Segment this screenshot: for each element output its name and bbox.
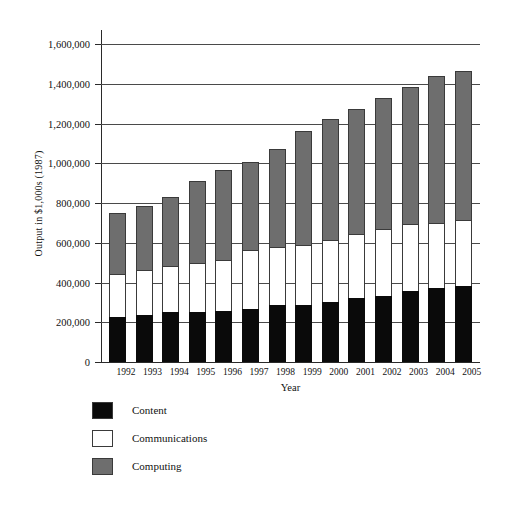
bar-segment-computing[interactable] (109, 213, 126, 274)
bar-segment-content[interactable] (322, 302, 339, 362)
legend-swatch-communications-icon (92, 430, 113, 447)
bar-segment-communications[interactable] (295, 245, 312, 305)
bar-segment-content[interactable] (189, 312, 206, 362)
gridline (101, 243, 480, 244)
bar-group[interactable] (455, 71, 472, 362)
bar-segment-computing[interactable] (402, 87, 419, 224)
bar-segment-content[interactable] (348, 298, 365, 362)
legend-item-label: Content (132, 404, 167, 416)
bar-segment-computing[interactable] (136, 206, 153, 270)
x-axis-tick-label: 2005 (455, 367, 489, 377)
legend-item[interactable]: Content (92, 396, 392, 424)
bar-segment-communications[interactable] (375, 229, 392, 296)
bar-segment-computing[interactable] (375, 98, 392, 229)
y-axis-tick-label: 1,600,000 (48, 39, 90, 50)
bar-segment-computing[interactable] (162, 197, 179, 266)
y-axis-tick-label: 400,000 (56, 277, 90, 288)
y-axis-tick-mark (95, 44, 101, 45)
bar-segment-communications[interactable] (269, 247, 286, 305)
bar-group[interactable] (322, 119, 339, 362)
bar-segment-computing[interactable] (322, 119, 339, 240)
bar-group[interactable] (189, 181, 206, 362)
bar-segment-computing[interactable] (215, 170, 232, 260)
bar-segment-communications[interactable] (455, 220, 472, 286)
bar-group[interactable] (402, 87, 419, 362)
gridline (101, 44, 480, 45)
legend-swatch-content-icon (92, 402, 113, 419)
bar-segment-communications[interactable] (322, 240, 339, 302)
bar-group[interactable] (215, 170, 232, 362)
bar-segment-computing[interactable] (295, 131, 312, 245)
bar-group[interactable] (348, 109, 365, 362)
y-axis-title: Output in $1,000s (1987) (33, 104, 44, 304)
y-axis-tick-label: 1,400,000 (48, 78, 90, 89)
legend-item-label: Computing (132, 460, 182, 472)
y-axis-tick-label: 800,000 (56, 198, 90, 209)
bar-segment-content[interactable] (402, 291, 419, 362)
bar-group[interactable] (269, 149, 286, 362)
bar-segment-communications[interactable] (242, 250, 259, 310)
y-axis-tick-label: 200,000 (56, 317, 90, 328)
y-axis-tick-mark (95, 163, 101, 164)
bar-segment-content[interactable] (269, 305, 286, 362)
bar-segment-communications[interactable] (348, 234, 365, 298)
bar-segment-computing[interactable] (189, 181, 206, 263)
bar-segment-computing[interactable] (242, 162, 259, 249)
gridline (101, 203, 480, 204)
y-axis-tick-label: 600,000 (56, 237, 90, 248)
x-axis-line (101, 362, 480, 363)
bar-segment-communications[interactable] (109, 274, 126, 318)
y-axis-tick-label: 0 (85, 357, 90, 368)
bar-segment-content[interactable] (295, 305, 312, 362)
bar-group[interactable] (162, 197, 179, 362)
bar-segment-content[interactable] (215, 311, 232, 362)
y-axis-tick-label: 1,000,000 (48, 158, 90, 169)
bar-segment-computing[interactable] (428, 76, 445, 223)
bar-group[interactable] (136, 206, 153, 362)
bar-segment-content[interactable] (109, 317, 126, 362)
y-axis-line (101, 30, 102, 363)
bar-segment-content[interactable] (455, 286, 472, 362)
gridline (101, 124, 480, 125)
bar-segment-content[interactable] (162, 312, 179, 362)
bar-segment-communications[interactable] (402, 224, 419, 291)
bar-segment-communications[interactable] (428, 223, 445, 288)
gridline (101, 322, 480, 323)
bar-segment-communications[interactable] (162, 266, 179, 312)
gridline (101, 163, 480, 164)
bar-segment-computing[interactable] (455, 71, 472, 220)
bar-segment-computing[interactable] (269, 149, 286, 247)
bar-segment-communications[interactable] (136, 270, 153, 315)
bar-group[interactable] (375, 98, 392, 362)
bar-segment-content[interactable] (375, 296, 392, 362)
legend-item[interactable]: Communications (92, 424, 392, 452)
y-axis-tick-label: 1,200,000 (48, 118, 90, 129)
gridline (101, 84, 480, 85)
y-axis-tick-mark (95, 362, 101, 363)
x-axis-title: Year (101, 382, 480, 393)
bar-segment-content[interactable] (428, 288, 445, 362)
stacked-bar-chart: Output in $1,000s (1987) 0200,000400,000… (0, 0, 505, 508)
bar-group[interactable] (428, 76, 445, 362)
y-axis-tick-mark (95, 283, 101, 284)
gridline (101, 283, 480, 284)
legend-swatch-computing-icon (92, 458, 113, 475)
y-axis-tick-mark (95, 84, 101, 85)
y-axis-tick-mark (95, 124, 101, 125)
y-axis-tick-mark (95, 322, 101, 323)
bar-segment-computing[interactable] (348, 109, 365, 234)
legend-item[interactable]: Computing (92, 452, 392, 480)
bar-group[interactable] (295, 131, 312, 362)
legend-item-label: Communications (132, 432, 207, 444)
bar-group[interactable] (242, 162, 259, 362)
y-axis-tick-mark (95, 203, 101, 204)
bar-group[interactable] (109, 213, 126, 362)
y-axis-tick-mark (95, 243, 101, 244)
plot-area: 0200,000400,000600,000800,0001,000,0001,… (101, 30, 480, 363)
bar-segment-content[interactable] (242, 309, 259, 362)
bar-segment-communications[interactable] (189, 263, 206, 312)
chart-legend: ContentCommunicationsComputing (92, 396, 392, 480)
bar-segment-content[interactable] (136, 315, 153, 362)
bar-segment-communications[interactable] (215, 260, 232, 311)
